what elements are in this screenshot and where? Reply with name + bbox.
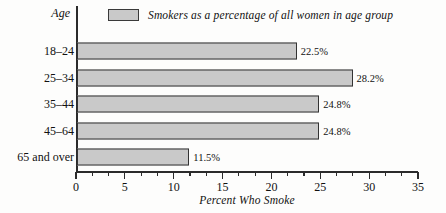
bar-row: 18–2422.5% [0, 38, 446, 64]
category-label: 35–44 [44, 97, 74, 112]
x-tick-label: 15 [217, 180, 229, 195]
x-tick-minor [287, 172, 288, 176]
y-axis-title: Age [51, 6, 70, 21]
category-label: 65 and over [17, 150, 74, 165]
bar[interactable] [77, 69, 353, 86]
x-tick-minor [385, 172, 386, 176]
x-tick-minor [352, 172, 353, 176]
x-tick-major [222, 172, 223, 179]
category-label: 25–34 [44, 70, 74, 85]
bar[interactable] [77, 122, 319, 139]
bar-value-label: 24.8% [323, 99, 350, 110]
x-tick-minor [303, 172, 304, 176]
x-tick-label: 30 [363, 180, 375, 195]
x-tick-label: 0 [73, 180, 79, 195]
bar[interactable] [77, 149, 189, 166]
x-tick-minor [141, 172, 142, 176]
bar-row: 65 and over11.5% [0, 144, 446, 170]
category-label: 45–64 [44, 123, 74, 138]
x-tick-label: 10 [168, 180, 180, 195]
bar-row: 35–4424.8% [0, 91, 446, 117]
x-tick-major [417, 172, 418, 179]
x-tick-label: 35 [412, 180, 424, 195]
bar-value-label: 28.2% [357, 72, 384, 83]
x-tick-label: 25 [314, 180, 326, 195]
bar[interactable] [77, 96, 319, 113]
x-tick-major [75, 172, 76, 179]
bar-row: 45–6424.8% [0, 118, 446, 144]
x-axis-title: Percent Who Smoke [76, 194, 418, 206]
bar-value-label: 24.8% [323, 125, 350, 136]
bar-row: 25–3428.2% [0, 65, 446, 91]
bar-chart: Age Smokers as a percentage of all women… [0, 0, 446, 213]
x-tick-label: 5 [122, 180, 128, 195]
x-tick-minor [108, 172, 109, 176]
legend-entry-label: Smokers as a percentage of all women in … [148, 9, 393, 21]
category-label: 18–24 [44, 44, 74, 59]
x-tick-minor [255, 172, 256, 176]
x-tick-major [369, 172, 370, 179]
x-tick-minor [238, 172, 239, 176]
x-tick-minor [189, 172, 190, 176]
bar-value-label: 22.5% [301, 46, 328, 57]
x-tick-minor [336, 172, 337, 176]
bar-value-label: 11.5% [193, 152, 220, 163]
x-tick-label: 20 [265, 180, 277, 195]
x-tick-minor [206, 172, 207, 176]
legend-swatch-icon [108, 9, 139, 21]
x-tick-major [124, 172, 125, 179]
x-tick-major [271, 172, 272, 179]
x-tick-minor [401, 172, 402, 176]
chart-legend: Smokers as a percentage of all women in … [108, 9, 393, 21]
x-tick-minor [157, 172, 158, 176]
x-tick-major [320, 172, 321, 179]
x-axis-line [76, 171, 418, 173]
x-tick-minor [92, 172, 93, 176]
x-tick-major [173, 172, 174, 179]
bar[interactable] [77, 43, 297, 60]
